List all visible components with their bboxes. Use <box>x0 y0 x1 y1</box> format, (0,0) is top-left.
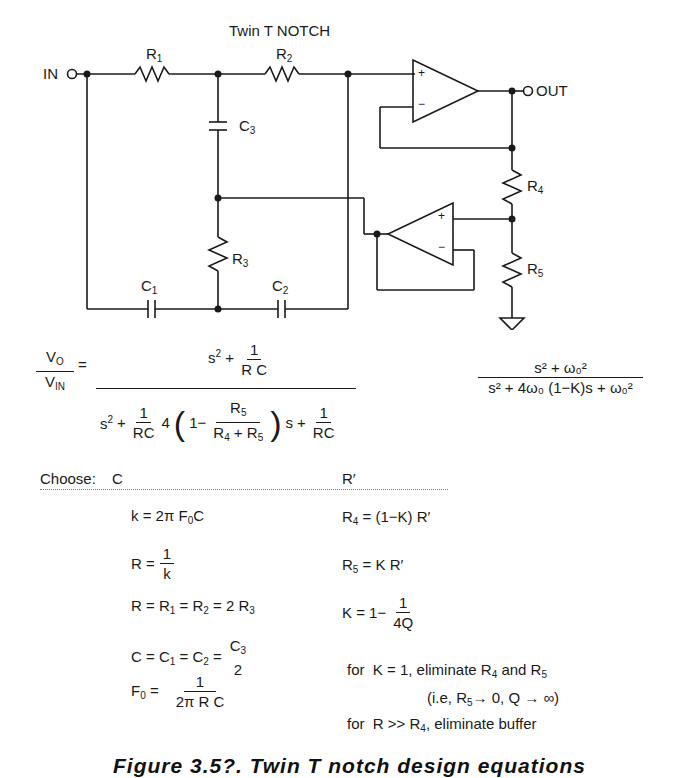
r2-label: R2 <box>276 45 292 64</box>
eq-K: K = 1− 14Q <box>342 593 416 632</box>
c3-label: C3 <box>239 117 255 136</box>
tf-lhs: VO VIN <box>36 347 74 396</box>
c1-label: C1 <box>141 277 157 296</box>
main-opamp-plus: + <box>418 66 425 80</box>
figure-caption: Figure 3.5?. Twin T notch design equatio… <box>113 754 586 778</box>
twin-t-notch-schematic <box>0 0 685 330</box>
r4-label: R4 <box>527 177 543 196</box>
choose-r-prime: R′ <box>342 470 356 487</box>
resistor-r5-icon <box>503 253 521 287</box>
eq-r-relations: R = R1 = R2 = 2 R3 <box>131 597 255 616</box>
input-terminal-icon <box>68 70 77 79</box>
buffer-opamp-minus: − <box>438 240 445 254</box>
choose-c: C <box>112 470 123 487</box>
resistor-r4-icon <box>503 170 521 204</box>
eq-k: k = 2π F0C <box>131 507 204 526</box>
choose-label: Choose: <box>40 470 96 487</box>
resistor-r3-icon <box>209 237 227 271</box>
eq-r-over-k: R = 1k <box>131 544 174 583</box>
buffer-opamp-plus: + <box>438 209 445 223</box>
normalized-tf: s² + ω₀² s² + 4ω₀ (1−K)s + ω₀² <box>478 358 643 398</box>
ground-icon <box>500 318 524 330</box>
r5-label: R5 <box>527 260 543 279</box>
r3-label: R3 <box>232 250 248 269</box>
note-eliminate-buffer: for R >> R4, eliminate buffer <box>347 715 537 734</box>
main-opamp-minus: − <box>418 97 425 111</box>
output-terminal-icon <box>524 87 533 96</box>
eq-r5: R5 = K R′ <box>342 556 403 575</box>
output-label: OUT <box>536 82 568 99</box>
eq-f0: F0 = 12π R C <box>131 672 227 711</box>
c2-label: C2 <box>272 277 288 296</box>
tf-equals: = <box>78 356 87 373</box>
note-limit: (i.e, R5→ 0, Q → ∞) <box>427 689 559 708</box>
r1-label: R1 <box>146 45 162 64</box>
eq-r4: R4 = (1−K) R′ <box>342 508 430 527</box>
choose-divider <box>40 489 448 490</box>
tf-denominator: s2 + 1RC 4 ( 1− R5 R4 + R5 ) s + 1RC <box>100 398 337 447</box>
resistor-r2-icon <box>265 67 299 81</box>
resistor-r1-icon <box>135 67 169 81</box>
tf-main-fraction-bar <box>96 388 356 389</box>
note-k-equals-1: for K = 1, eliminate R4 and R5 <box>347 661 547 680</box>
tf-numerator: s2 + 1R C <box>208 340 270 379</box>
input-label: IN <box>43 65 58 82</box>
